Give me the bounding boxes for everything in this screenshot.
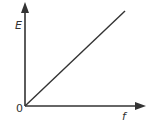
- x-axis-arrow-icon: [135, 102, 146, 110]
- origin-label: 0: [16, 103, 23, 114]
- proportional-line: [25, 11, 125, 106]
- y-axis-label: E: [15, 20, 22, 31]
- x-axis-label: f: [122, 111, 126, 122]
- y-axis-arrow-icon: [21, 2, 29, 13]
